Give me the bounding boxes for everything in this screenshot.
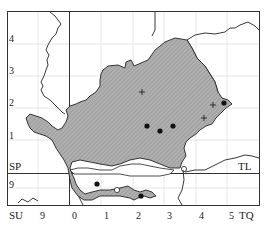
y-tick: 4	[9, 33, 14, 44]
x-tick: 5	[229, 210, 234, 221]
x-tick: 4	[199, 210, 204, 221]
x-tick: 0	[72, 210, 77, 221]
label-sp: SP	[9, 160, 21, 172]
record-dot	[157, 128, 162, 133]
record-open	[114, 187, 119, 192]
record-dot	[170, 123, 175, 128]
record-dot	[221, 100, 226, 105]
x-tick: 1	[104, 210, 109, 221]
record-dot	[144, 123, 149, 128]
y-tick: 9	[9, 179, 14, 190]
x-tick: 3	[167, 210, 172, 221]
label-su: SU	[9, 209, 23, 221]
record-dot	[94, 181, 99, 186]
label-tl: TL	[238, 160, 252, 172]
label-tq: TQ	[239, 209, 254, 221]
x-tick: 9	[40, 210, 45, 221]
y-tick: 2	[9, 97, 14, 108]
record-dot	[138, 193, 143, 198]
x-tick: 2	[136, 210, 141, 221]
y-tick: 1	[9, 130, 14, 141]
y-tick: 3	[9, 65, 14, 76]
distribution-map: 4 3 2 1 9 9 0 1 2 3 4 5 SP TL SU TQ	[0, 0, 266, 234]
